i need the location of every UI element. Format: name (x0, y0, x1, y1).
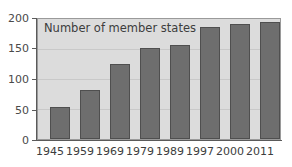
y-tick-label-200: 200 (8, 13, 29, 24)
bar-1959 (80, 90, 100, 139)
bar-1945 (50, 107, 70, 139)
bar-1979 (140, 48, 160, 139)
bar-1997 (200, 27, 220, 139)
y-tick-0 (32, 140, 36, 141)
bar-2000 (230, 24, 250, 139)
y-axis-line (36, 18, 37, 141)
plot-area (37, 18, 281, 140)
y-tick-label-100: 100 (8, 74, 29, 85)
y-tick-100 (32, 79, 36, 80)
y-tick-150 (32, 48, 36, 49)
bar-1989 (170, 45, 190, 139)
bar-chart: Number of member states 200 150 100 50 0… (0, 0, 292, 167)
x-tick-label-2011: 2011 (240, 145, 280, 158)
y-tick-label-50: 50 (15, 105, 29, 116)
x-axis-line (36, 140, 282, 141)
y-tick-label-150: 150 (8, 43, 29, 54)
chart-title: Number of member states (44, 21, 196, 35)
bar-1969 (110, 64, 130, 139)
bar-2011 (260, 22, 280, 139)
y-tick-200 (32, 18, 36, 19)
y-tick-50 (32, 110, 36, 111)
y-tick-label-0: 0 (22, 135, 29, 146)
